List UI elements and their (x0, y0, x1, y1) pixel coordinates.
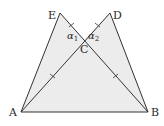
label-C: C (80, 43, 88, 56)
label-D: D (113, 9, 122, 22)
label-A: A (8, 106, 18, 119)
label-E: E (48, 9, 56, 22)
label-B: B (151, 106, 159, 119)
geometry-diagram: A B C D E α1 α2 (0, 0, 164, 126)
